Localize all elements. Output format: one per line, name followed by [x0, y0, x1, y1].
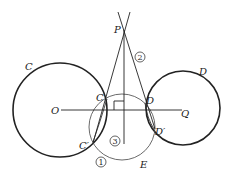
svg-text:3: 3: [113, 137, 118, 146]
label-d-prime: D′: [154, 126, 166, 137]
step-1-marker: 1: [96, 157, 106, 167]
label-circle-c: C: [25, 61, 33, 72]
label-p: P: [113, 24, 121, 35]
step-2-marker: 2: [135, 52, 145, 62]
step-3-marker: 3: [110, 136, 120, 146]
label-o: O: [51, 105, 59, 116]
label-c-point: C: [96, 92, 104, 103]
label-c-prime: C′: [79, 140, 90, 151]
label-q: Q: [181, 108, 189, 119]
label-circle-d: D: [198, 66, 207, 77]
right-angle-marker: [114, 101, 124, 110]
label-d-point: D: [145, 95, 154, 106]
label-e: E: [139, 159, 148, 170]
svg-text:1: 1: [99, 158, 104, 167]
svg-text:2: 2: [138, 53, 143, 62]
geometry-diagram: P C D O Q C D C′ D′ E 1 2 3: [0, 0, 230, 177]
